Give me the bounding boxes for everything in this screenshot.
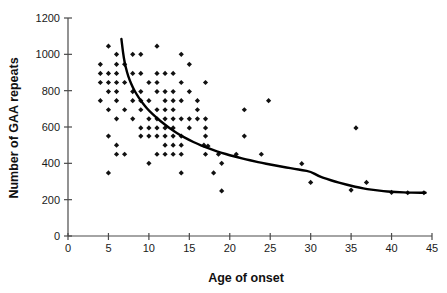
data-point <box>146 116 151 121</box>
data-point <box>179 116 184 121</box>
data-point <box>130 71 135 76</box>
data-point <box>106 170 111 175</box>
data-point <box>179 143 184 148</box>
data-point <box>171 116 176 121</box>
data-point <box>106 44 111 49</box>
data-point <box>162 89 167 94</box>
data-point <box>138 89 143 94</box>
data-point <box>146 133 151 138</box>
data-point <box>187 62 192 67</box>
data-point <box>138 133 143 138</box>
data-point <box>162 71 167 76</box>
data-point <box>195 107 200 112</box>
data-point <box>154 125 159 130</box>
data-point <box>154 89 159 94</box>
data-point <box>187 89 192 94</box>
x-tick-label: 40 <box>385 242 397 254</box>
data-point <box>146 80 151 85</box>
y-tick-label: 1000 <box>36 48 60 60</box>
data-point <box>114 143 119 148</box>
data-point <box>203 152 208 157</box>
data-point <box>114 71 119 76</box>
data-point <box>154 44 159 49</box>
data-point <box>138 71 143 76</box>
data-point <box>98 71 103 76</box>
data-point <box>114 98 119 103</box>
data-point <box>162 152 167 157</box>
data-point <box>154 107 159 112</box>
data-point <box>106 89 111 94</box>
data-point <box>154 152 159 157</box>
data-point <box>146 161 151 166</box>
data-point <box>203 116 208 121</box>
y-tick-label: 1200 <box>36 12 60 24</box>
data-point <box>242 107 247 112</box>
data-point <box>114 116 119 121</box>
data-point <box>179 152 184 157</box>
data-point <box>242 133 247 138</box>
data-point <box>106 133 111 138</box>
data-point <box>308 180 313 185</box>
x-tick-label: 25 <box>264 242 276 254</box>
x-axis-tick-labels: 051015202530354045 <box>65 242 438 254</box>
data-point <box>187 125 192 130</box>
data-point <box>162 116 167 121</box>
data-points-layer <box>98 44 427 196</box>
data-point <box>146 125 151 130</box>
data-point <box>171 89 176 94</box>
data-point <box>171 152 176 157</box>
data-point <box>187 116 192 121</box>
data-point <box>130 98 135 103</box>
data-point <box>179 170 184 175</box>
data-point <box>98 80 103 85</box>
data-point <box>162 143 167 148</box>
data-point <box>162 133 167 138</box>
data-point <box>154 133 159 138</box>
fit-curve-line <box>121 39 425 193</box>
data-point <box>259 152 264 157</box>
x-tick-label: 0 <box>65 242 71 254</box>
x-tick-label: 10 <box>143 242 155 254</box>
y-tick-label: 600 <box>42 121 60 133</box>
data-point <box>203 80 208 85</box>
data-point <box>130 52 135 57</box>
data-point <box>203 133 208 138</box>
data-point <box>122 152 127 157</box>
data-point <box>219 188 224 193</box>
data-point <box>171 107 176 112</box>
y-axis-title: Number of GAA repeats <box>7 57 21 198</box>
y-tick-label: 200 <box>42 194 60 206</box>
data-point <box>203 125 208 130</box>
x-tick-label: 5 <box>105 242 111 254</box>
y-tick-label: 400 <box>42 157 60 169</box>
data-point <box>179 52 184 57</box>
data-point <box>98 98 103 103</box>
data-point <box>138 125 143 130</box>
chart-figure: 020040060080010001200 051015202530354045… <box>0 0 447 293</box>
data-point <box>122 80 127 85</box>
data-point <box>122 107 127 112</box>
data-point <box>138 52 143 57</box>
data-point <box>349 187 354 192</box>
data-point <box>353 125 358 130</box>
data-point <box>179 98 184 103</box>
x-tick-label: 35 <box>345 242 357 254</box>
data-point <box>146 98 151 103</box>
data-point <box>138 107 143 112</box>
data-point <box>211 170 216 175</box>
data-point <box>154 80 159 85</box>
x-tick-label: 30 <box>305 242 317 254</box>
data-point <box>114 52 119 57</box>
y-axis-tick-labels: 020040060080010001200 <box>36 12 60 242</box>
scatter-plot: 020040060080010001200 051015202530354045… <box>0 0 447 293</box>
data-point <box>130 116 135 121</box>
data-point <box>162 98 167 103</box>
data-point <box>364 180 369 185</box>
data-point <box>162 107 167 112</box>
data-point <box>114 62 119 67</box>
data-point <box>106 107 111 112</box>
data-point <box>266 98 271 103</box>
data-point <box>171 71 176 76</box>
data-point <box>98 62 103 67</box>
data-point <box>154 71 159 76</box>
